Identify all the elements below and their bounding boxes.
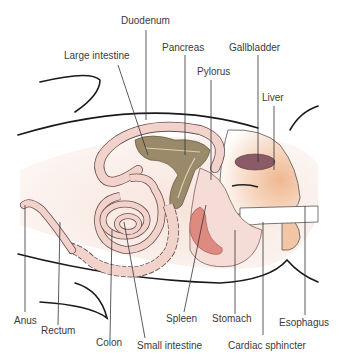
label-pylorus: Pylorus bbox=[197, 66, 230, 77]
digestive-system-diagram: Duodenum Large intestine Pancreas Gallbl… bbox=[0, 0, 347, 363]
label-liver: Liver bbox=[262, 92, 284, 103]
label-spleen: Spleen bbox=[166, 313, 197, 324]
label-duodenum: Duodenum bbox=[121, 15, 170, 26]
diagram-canvas: Duodenum Large intestine Pancreas Gallbl… bbox=[0, 0, 347, 363]
label-gallbladder: Gallbladder bbox=[229, 42, 281, 53]
label-large-intestine: Large intestine bbox=[64, 50, 130, 61]
label-cardiac-sphincter: Cardiac sphincter bbox=[228, 340, 306, 351]
label-small-intestine: Small intestine bbox=[137, 340, 202, 351]
label-anus: Anus bbox=[14, 315, 37, 326]
esophagus bbox=[240, 206, 318, 225]
label-colon: Colon bbox=[96, 337, 122, 348]
label-esophagus: Esophagus bbox=[279, 317, 329, 328]
gallbladder bbox=[235, 154, 275, 170]
label-stomach: Stomach bbox=[212, 313, 251, 324]
liver bbox=[220, 130, 300, 214]
label-pancreas: Pancreas bbox=[162, 42, 204, 53]
label-rectum: Rectum bbox=[41, 325, 75, 336]
